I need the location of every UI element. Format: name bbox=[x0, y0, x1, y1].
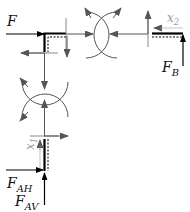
label-x1: x1 bbox=[24, 138, 39, 150]
corner-segment bbox=[6, 18, 93, 89]
label-fav: FAV bbox=[15, 194, 38, 212]
moment-arc-top-right-arrowhead bbox=[113, 8, 121, 18]
label-fav-main: F bbox=[15, 193, 25, 209]
label-fav-sub: AV bbox=[25, 201, 39, 212]
moment-arc-mid-upper-arrowhead bbox=[20, 78, 28, 87]
beam-corner bbox=[45, 34, 67, 53]
moment-arc-top-right-icon bbox=[94, 12, 117, 58]
label-x2-sub: 2 bbox=[174, 17, 179, 27]
label-x2: x2 bbox=[167, 12, 179, 27]
label-fb: FB bbox=[162, 60, 179, 78]
label-fah-main: F bbox=[7, 175, 17, 191]
label-fah: FAH bbox=[7, 176, 32, 194]
moment-arc-top-left-icon bbox=[86, 12, 109, 58]
label-f-text: F bbox=[7, 13, 17, 29]
moment-arc-mid-lower-arrowhead bbox=[20, 112, 28, 121]
label-x1-main: x bbox=[23, 143, 37, 150]
moment-arc-top-left-arrowhead bbox=[85, 8, 91, 18]
beam-corner-fiber-dashed bbox=[48, 37, 66, 52]
label-x2-main: x bbox=[167, 11, 174, 25]
label-x1-sub: 1 bbox=[29, 138, 39, 143]
label-f: F bbox=[7, 14, 17, 28]
label-fb-main: F bbox=[162, 59, 172, 75]
label-fb-sub: B bbox=[172, 67, 179, 78]
